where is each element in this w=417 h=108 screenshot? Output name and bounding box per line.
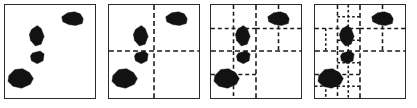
blob-small-middle (340, 51, 354, 64)
blob-upper-left-diamond (29, 26, 44, 47)
panel-level-2 (210, 4, 302, 99)
blob-top-right (372, 12, 394, 26)
blob-upper-left-diamond (133, 26, 148, 47)
blob-small-middle (30, 51, 44, 64)
panel-level-0 (4, 4, 96, 99)
blob-top-right (166, 12, 188, 26)
panel-level-3-canvas (315, 5, 405, 98)
blob-small-middle (134, 51, 148, 64)
blob-group (8, 12, 83, 88)
blob-bottom-left (112, 69, 137, 89)
blob-group (112, 12, 187, 88)
blob-top-right (268, 12, 290, 26)
blob-group (214, 12, 289, 88)
blob-group (318, 12, 393, 88)
panel-level-1-canvas (109, 5, 199, 98)
blob-bottom-left (8, 69, 33, 89)
blob-top-right (62, 12, 84, 26)
quadtree-figure (0, 0, 417, 108)
blob-bottom-left (214, 69, 239, 89)
panel-level-2-canvas (211, 5, 301, 98)
panel-level-3 (314, 4, 406, 99)
panel-level-0-canvas (5, 5, 95, 98)
blob-small-middle (236, 51, 250, 64)
blob-bottom-left (318, 69, 343, 89)
panel-level-1 (108, 4, 200, 99)
